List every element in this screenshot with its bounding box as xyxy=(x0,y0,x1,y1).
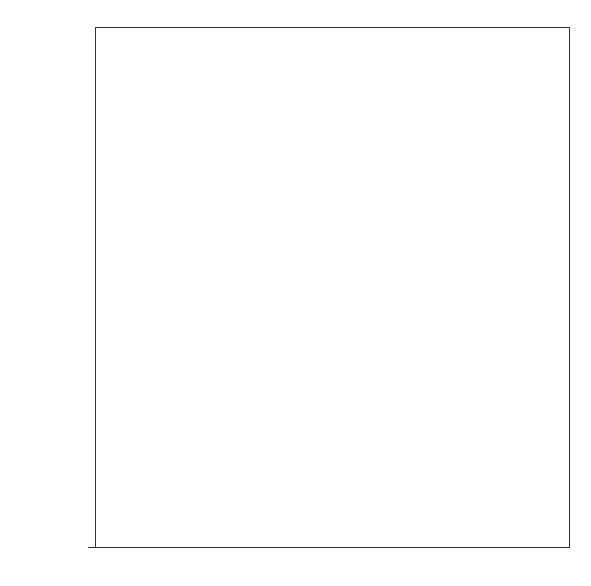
plot-frame xyxy=(95,27,570,548)
x-axis-line xyxy=(88,547,570,548)
